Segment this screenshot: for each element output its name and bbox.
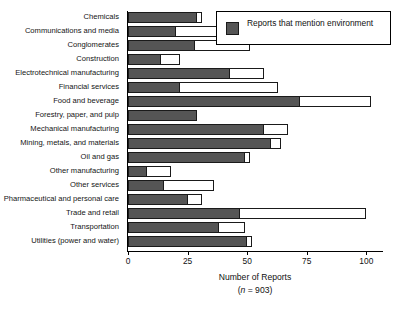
bar-segment-environment <box>128 82 180 93</box>
chart-legend: Reports that mention environment <box>216 11 391 45</box>
bar-row <box>128 152 383 163</box>
bar-row <box>128 236 383 247</box>
category-label: Financial services <box>0 83 119 91</box>
bar-row <box>128 82 383 93</box>
category-label: Transportation <box>0 223 119 231</box>
legend-label-environment: Reports that mention environment <box>247 18 385 29</box>
bar-segment-environment <box>128 40 195 51</box>
bar-segment-environment <box>128 110 197 121</box>
x-axis-tick <box>366 251 367 255</box>
category-label: Communications and media <box>0 27 119 35</box>
bar-row <box>128 208 383 219</box>
category-label: Conglomerates <box>0 41 119 49</box>
bar-segment-environment <box>128 124 264 135</box>
x-axis-title: Number of Reports <box>127 272 383 282</box>
bar-row <box>128 110 383 121</box>
bar-chart-figure: ChemicalsCommunications and mediaConglom… <box>0 0 407 316</box>
bar-row <box>128 54 383 65</box>
bar-segment-environment <box>128 26 176 37</box>
bar-row <box>128 96 383 107</box>
category-label: Trade and retail <box>0 209 119 217</box>
x-axis-tick <box>247 251 248 255</box>
x-axis-tick <box>307 251 308 255</box>
bar-segment-environment <box>128 152 245 163</box>
x-axis-tick <box>188 251 189 255</box>
category-label: Mechanical manufacturing <box>0 125 119 133</box>
category-label: Oil and gas <box>0 153 119 161</box>
bar-segment-environment <box>128 236 247 247</box>
category-label: Electrotechnical manufacturing <box>0 69 119 77</box>
bar-row <box>128 222 383 233</box>
category-label: Pharmaceutical and personal care <box>0 195 119 203</box>
category-label: Food and beverage <box>0 97 119 105</box>
bar-segment-environment <box>128 222 219 233</box>
x-axis-tick-label: 75 <box>292 257 322 266</box>
legend-swatch-environment <box>226 22 239 35</box>
bar-segment-environment <box>128 166 147 177</box>
x-axis-line <box>127 251 383 252</box>
bar-row <box>128 124 383 135</box>
category-label: Mining, metals, and materials <box>0 139 119 147</box>
category-label: Utilities (power and water) <box>0 237 119 245</box>
x-axis-tick-label: 25 <box>173 257 203 266</box>
x-axis-tick-label: 100 <box>351 257 381 266</box>
bar-segment-environment <box>128 96 300 107</box>
plot-area <box>127 11 382 251</box>
bar-segment-environment <box>128 180 164 191</box>
bar-row <box>128 194 383 205</box>
bar-segment-environment <box>128 138 271 149</box>
category-label: Other manufacturing <box>0 167 119 175</box>
x-axis-tick-label: 0 <box>113 257 143 266</box>
bar-segment-environment <box>128 208 240 219</box>
x-axis-subtitle-suffix: = 903) <box>245 285 272 295</box>
bar-segment-environment <box>128 194 188 205</box>
category-label: Chemicals <box>0 13 119 21</box>
bar-segment-environment <box>128 12 197 23</box>
category-label: Construction <box>0 55 119 63</box>
x-axis-tick-label: 50 <box>232 257 262 266</box>
bar-segment-environment <box>128 68 230 79</box>
x-axis-subtitle: (n = 903) <box>127 285 383 295</box>
x-axis-tick <box>128 251 129 255</box>
bar-row <box>128 68 383 79</box>
bar-segment-environment <box>128 54 161 65</box>
bar-row <box>128 180 383 191</box>
bar-row <box>128 166 383 177</box>
category-axis-labels: ChemicalsCommunications and mediaConglom… <box>0 11 123 251</box>
category-label: Forestry, paper, and pulp <box>0 111 119 119</box>
bar-row <box>128 138 383 149</box>
category-label: Other services <box>0 181 119 189</box>
